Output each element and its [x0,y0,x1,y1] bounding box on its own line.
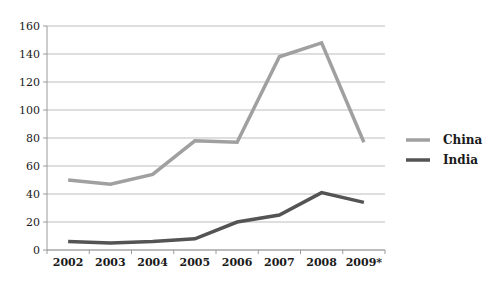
x-axis-tick-label: 2004 [137,256,168,269]
y-axis-tick-label: 140 [19,48,40,61]
chart-canvas: 0204060801001201401602002200320042005200… [0,0,483,284]
y-axis-tick-label: 100 [19,104,40,117]
legend-label-china: China [443,133,483,147]
series-line-china [68,43,364,184]
x-axis-tick-label: 2002 [53,256,84,269]
y-axis-tick-label: 20 [26,216,40,229]
x-axis-tick-label: 2007 [264,256,295,269]
y-axis-tick-label: 40 [26,188,40,201]
legend-label-india: India [443,153,478,167]
x-axis-tick-label: 2008 [306,256,337,269]
y-axis-tick-label: 60 [26,160,40,173]
x-axis-tick-label: 2003 [95,256,126,269]
series-line-india [68,193,364,243]
line-chart: 0204060801001201401602002200320042005200… [0,0,483,284]
y-axis-tick-label: 120 [19,76,40,89]
x-axis-tick-label: 2006 [222,256,253,269]
x-axis-tick-label: 2009* [346,256,383,269]
y-axis-tick-label: 160 [19,20,40,33]
x-axis-tick-label: 2005 [180,256,211,269]
y-axis-tick-label: 80 [26,132,40,145]
y-axis-tick-label: 0 [33,244,40,257]
